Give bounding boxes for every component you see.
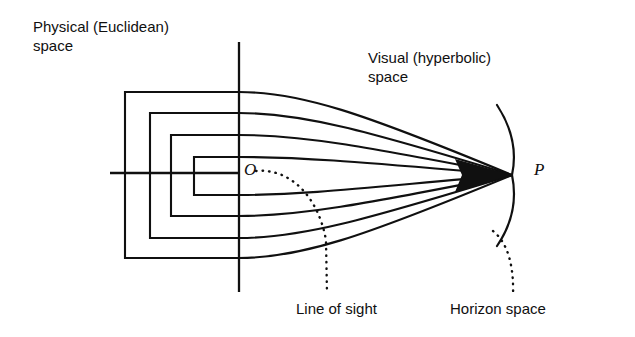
- label-visual-space: Visual (hyperbolic) space: [368, 48, 491, 86]
- nested-rectangles-group: [125, 92, 239, 258]
- label-origin-point-o: O: [244, 160, 256, 180]
- horizon-space-leader: [493, 231, 513, 296]
- diagram-canvas: Physical (Euclidean) space Visual (hyper…: [0, 0, 635, 337]
- label-vanishing-point-p: P: [534, 160, 544, 180]
- label-physical-space: Physical (Euclidean) space: [33, 17, 169, 55]
- label-horizon-space: Horizon space: [450, 299, 546, 318]
- nested-rectangle-1: [125, 92, 239, 258]
- label-line-of-sight: Line of sight: [296, 299, 377, 318]
- nested-rectangle-3: [171, 135, 239, 216]
- nested-rectangle-4: [194, 157, 239, 195]
- line-of-sight-leader: [256, 171, 327, 293]
